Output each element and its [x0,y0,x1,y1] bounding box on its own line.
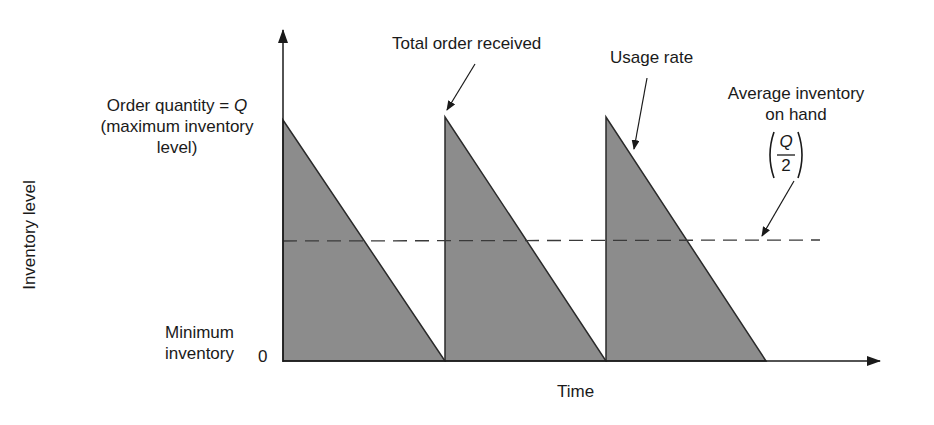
x-axis-label: Time [557,381,594,402]
minimum-inventory-label: Minimum inventory [165,322,234,364]
level-text: level) [82,137,272,158]
inventory-cycle-3 [606,117,766,361]
average-inventory-arrow [762,181,794,236]
order-quantity-label: Order quantity = Q (maximum inventory le… [82,95,272,158]
y-axis-label: Inventory level [20,180,40,290]
total-order-received-label: Total order received [392,33,541,54]
zero-tick-label: 0 [258,346,267,367]
total-order-arrow [447,64,475,110]
average-inventory-text: Average inventory [706,83,886,104]
inventory-cycle-2 [445,117,606,361]
order-quantity-text: Order quantity = [107,96,234,115]
minimum-text: Minimum [165,322,234,343]
inventory-chart [0,0,934,425]
usage-rate-arrow [634,78,647,149]
usage-rate-label: Usage rate [610,47,693,68]
fraction-denominator: 2 [766,156,806,176]
max-inventory-text: (maximum inventory [82,116,272,137]
fraction-numerator: Q [766,132,806,152]
average-inventory-label: Average inventory on hand [706,83,886,125]
q-variable: Q [234,96,247,115]
on-hand-text: on hand [706,104,886,125]
q-over-2-fraction: Q 2 [766,128,826,182]
inventory-text: inventory [165,343,234,364]
